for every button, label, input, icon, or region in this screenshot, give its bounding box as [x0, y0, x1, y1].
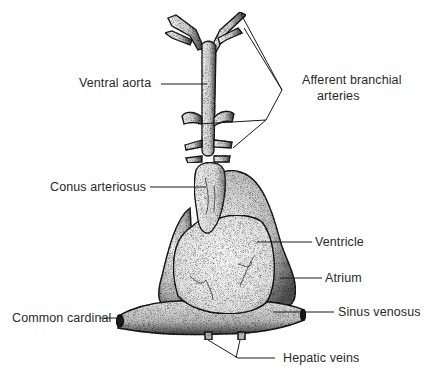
- label-hepatic-veins: Hepatic veins: [283, 351, 359, 365]
- label-ventral-aorta: Ventral aorta: [79, 76, 151, 90]
- label-conus-arteriosus: Conus arteriosus: [50, 180, 146, 194]
- label-afferent-branchial-line1: Afferent branchial: [302, 73, 402, 87]
- label-common-cardinal: Common cardinal: [12, 311, 111, 325]
- label-ventricle: Ventricle: [315, 235, 364, 249]
- label-sinus-venosus: Sinus venosus: [338, 305, 421, 319]
- label-afferent-branchial-line2: arteries: [317, 89, 359, 103]
- ventral-aorta-shape: [165, 12, 246, 163]
- ventricle-shape: [174, 215, 275, 314]
- label-atrium: Atrium: [325, 271, 362, 285]
